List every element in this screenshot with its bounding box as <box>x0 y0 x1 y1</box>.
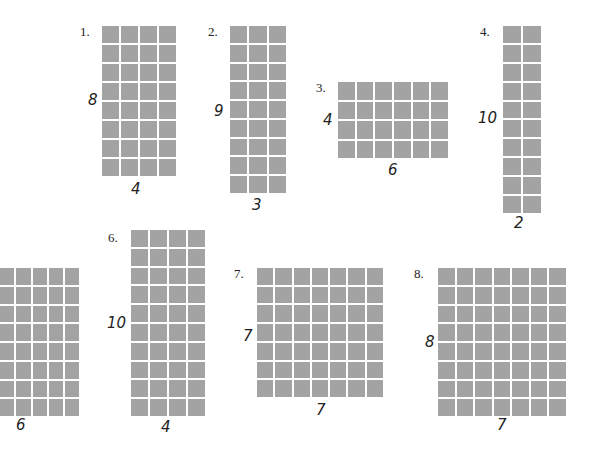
grid-cell <box>503 139 521 156</box>
grid-cell <box>140 83 157 100</box>
grid-cell <box>16 399 30 416</box>
grid-cell <box>150 249 167 266</box>
grid-cell <box>531 399 548 416</box>
grid-cell <box>131 380 148 397</box>
grid-cell <box>249 26 266 43</box>
grid-cell <box>0 268 14 285</box>
grid-cell <box>140 64 157 81</box>
grid-cell <box>357 121 374 139</box>
grid-cell <box>49 306 63 323</box>
grid-cell <box>150 399 167 416</box>
grid-cell <box>294 287 310 304</box>
grid-cell <box>65 381 79 398</box>
grid-cell <box>312 362 328 379</box>
grid-cell <box>188 399 205 416</box>
grid-cell <box>475 343 492 360</box>
grid-cell <box>394 141 411 159</box>
array-grid <box>102 26 176 176</box>
grid-cell <box>230 176 247 193</box>
grid-cell <box>531 343 548 360</box>
problem-number: 3. <box>316 80 326 96</box>
grid-cell <box>16 268 30 285</box>
grid-cell <box>275 268 291 285</box>
grid-cell <box>275 324 291 341</box>
grid-cell <box>275 362 291 379</box>
grid-cell <box>275 380 291 397</box>
grid-cell <box>512 399 529 416</box>
grid-cell <box>269 120 286 137</box>
grid-cell <box>457 343 474 360</box>
grid-cell <box>121 64 138 81</box>
grid-cell <box>49 343 63 360</box>
grid-cell <box>169 324 186 341</box>
grid-cell <box>475 399 492 416</box>
grid-cell <box>312 287 328 304</box>
grid-cell <box>257 287 273 304</box>
grid-cell <box>275 287 291 304</box>
grid-cell <box>348 287 364 304</box>
grid-cell <box>367 287 383 304</box>
grid-cell <box>121 45 138 62</box>
grid-cell <box>512 381 529 398</box>
grid-cell <box>188 249 205 266</box>
grid-cell <box>102 102 119 119</box>
grid-cell <box>375 102 392 120</box>
grid-cell <box>438 287 455 304</box>
grid-cell <box>102 140 119 157</box>
grid-cell <box>150 343 167 360</box>
grid-cell <box>503 26 521 43</box>
grid-cell <box>512 324 529 341</box>
grid-cell <box>294 305 310 322</box>
grid-cell <box>523 83 541 100</box>
grid-cell <box>413 102 430 120</box>
grid-cell <box>188 268 205 285</box>
problem-number: 6. <box>108 230 118 246</box>
width-label: 7 <box>497 416 507 434</box>
grid-cell <box>275 305 291 322</box>
grid-cell <box>188 362 205 379</box>
grid-cell <box>102 121 119 138</box>
grid-cell <box>49 268 63 285</box>
grid-cell <box>230 101 247 118</box>
grid-cell <box>188 380 205 397</box>
grid-cell <box>457 268 474 285</box>
grid-cell <box>394 82 411 100</box>
grid-cell <box>131 286 148 303</box>
grid-cell <box>312 343 328 360</box>
grid-cell <box>357 102 374 120</box>
grid-cell <box>431 141 448 159</box>
grid-cell <box>294 380 310 397</box>
grid-cell <box>431 82 448 100</box>
grid-cell <box>312 380 328 397</box>
problem-number: 4. <box>480 24 490 40</box>
grid-cell <box>512 287 529 304</box>
grid-cell <box>549 306 566 323</box>
grid-cell <box>475 362 492 379</box>
grid-cell <box>49 324 63 341</box>
grid-cell <box>169 362 186 379</box>
grid-cell <box>159 102 176 119</box>
grid-cell <box>269 26 286 43</box>
grid-cell <box>150 268 167 285</box>
grid-cell <box>150 286 167 303</box>
grid-cell <box>457 399 474 416</box>
grid-cell <box>457 287 474 304</box>
grid-cell <box>269 101 286 118</box>
grid-cell <box>338 102 355 120</box>
grid-cell <box>549 324 566 341</box>
grid-cell <box>49 287 63 304</box>
grid-cell <box>330 380 346 397</box>
grid-cell <box>348 305 364 322</box>
grid-cell <box>523 120 541 137</box>
grid-cell <box>33 362 47 379</box>
grid-cell <box>503 158 521 175</box>
height-label: 7 <box>243 327 253 345</box>
height-label: 4 <box>323 111 333 129</box>
grid-cell <box>457 362 474 379</box>
grid-cell <box>330 268 346 285</box>
grid-cell <box>503 83 521 100</box>
grid-cell <box>294 343 310 360</box>
grid-cell <box>65 306 79 323</box>
grid-cell <box>531 362 548 379</box>
grid-cell <box>494 287 511 304</box>
